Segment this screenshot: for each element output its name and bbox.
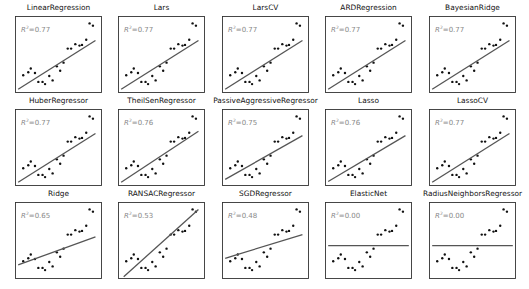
panel-title: HuberRegressor: [5, 95, 112, 107]
data-point: [67, 140, 69, 142]
data-point: [344, 72, 346, 74]
r2-value: 0.77: [138, 26, 154, 34]
data-point: [27, 257, 29, 259]
scatter-plot: R2=0.00: [325, 202, 412, 279]
data-point: [59, 163, 61, 165]
panel-lasso: Lasso R2=0.76: [325, 95, 412, 187]
data-point: [391, 44, 393, 46]
data-point: [455, 267, 457, 269]
data-point: [351, 267, 353, 269]
data-point: [358, 75, 360, 77]
data-point: [502, 22, 504, 24]
data-point: [332, 167, 334, 169]
data-point: [377, 140, 379, 142]
data-point: [377, 47, 379, 49]
data-point: [125, 167, 127, 169]
data-point: [492, 137, 494, 139]
data-point: [237, 67, 239, 69]
data-point: [332, 74, 334, 76]
data-point: [495, 137, 497, 139]
r2-annotation: R2=0.00: [331, 211, 360, 220]
data-point: [177, 43, 179, 45]
panel-title: LinearRegression: [5, 2, 112, 14]
data-point: [492, 44, 494, 46]
data-point: [137, 258, 139, 260]
data-point: [181, 137, 183, 139]
scatter-plot: R2=0.48: [222, 202, 309, 279]
data-point: [37, 174, 39, 176]
data-point: [391, 137, 393, 139]
panel-title: SGDRegressor: [212, 188, 319, 200]
data-point: [258, 172, 260, 174]
data-point: [281, 229, 283, 231]
data-point: [441, 164, 443, 166]
r2-annotation: R2=0.77: [21, 25, 50, 34]
data-point: [488, 136, 490, 138]
data-point: [266, 163, 268, 165]
data-point: [465, 265, 467, 267]
data-point: [458, 83, 460, 85]
panel-title: RadiusNeighborsRegressor: [419, 188, 526, 200]
data-point: [88, 208, 90, 210]
data-point: [48, 168, 50, 170]
data-point: [130, 164, 132, 166]
data-point: [295, 115, 297, 117]
data-point: [37, 81, 39, 83]
r2-annotation: R2=0.76: [331, 118, 360, 127]
data-point: [295, 22, 297, 24]
data-point: [30, 160, 32, 162]
data-point: [484, 233, 486, 235]
data-point: [344, 165, 346, 167]
data-point: [255, 75, 257, 77]
data-point: [81, 230, 83, 232]
data-point: [441, 71, 443, 73]
data-point: [244, 81, 246, 83]
data-point: [384, 229, 386, 231]
r2-annotation: R2=0.75: [228, 118, 257, 127]
data-point: [358, 168, 360, 170]
r2-annotation: R2=0.76: [124, 118, 153, 127]
data-point: [92, 24, 94, 26]
data-point: [177, 136, 179, 138]
r2-annotation: R2=0.77: [435, 118, 464, 127]
data-point: [384, 136, 386, 138]
data-point: [234, 164, 236, 166]
data-point: [369, 70, 371, 72]
panel-title: ElasticNet: [315, 188, 422, 200]
data-point: [299, 210, 301, 212]
data-point: [274, 47, 276, 49]
data-point: [27, 71, 29, 73]
data-point: [51, 172, 53, 174]
data-point: [340, 67, 342, 69]
data-point: [48, 75, 50, 77]
data-point: [395, 39, 397, 41]
data-point: [347, 81, 349, 83]
data-point: [458, 176, 460, 178]
data-point: [380, 233, 382, 235]
data-point: [337, 71, 339, 73]
data-point: [506, 24, 508, 26]
r2-annotation: R2=0.48: [228, 211, 257, 220]
data-point: [436, 167, 438, 169]
data-point: [444, 160, 446, 162]
data-point: [177, 229, 179, 231]
data-point: [241, 258, 243, 260]
data-point: [144, 174, 146, 176]
data-point: [354, 176, 356, 178]
panel-title: TheilSenRegressor: [108, 95, 215, 107]
data-point: [380, 140, 382, 142]
data-point: [30, 253, 32, 255]
data-point: [81, 44, 83, 46]
data-point: [388, 230, 390, 232]
data-point: [299, 117, 301, 119]
data-point: [274, 233, 276, 235]
data-point: [476, 247, 478, 249]
r2-annotation: R2=0.77: [228, 25, 257, 34]
data-point: [473, 256, 475, 258]
data-point: [384, 43, 386, 45]
data-point: [361, 79, 363, 81]
panel-elasticnet: ElasticNet R2=0.00: [325, 188, 412, 280]
data-point: [162, 163, 164, 165]
data-point: [288, 230, 290, 232]
data-point: [188, 39, 190, 41]
